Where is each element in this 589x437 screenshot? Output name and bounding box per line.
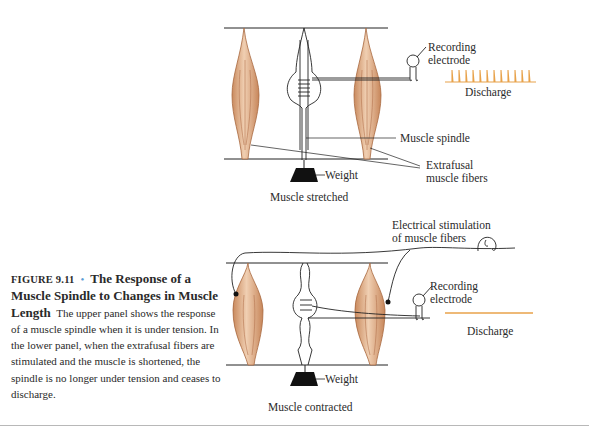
panel-title-stretched: Muscle stretched [270, 191, 348, 204]
muscle-spindle-slack [293, 263, 317, 365]
label-line: muscle fibers [426, 172, 488, 185]
weight-lower [290, 372, 318, 386]
label-line: Recording [430, 280, 478, 293]
label-line: electrode [428, 54, 476, 67]
label-muscle-spindle: Muscle spindle [400, 132, 470, 145]
extrafusal-muscle-right [354, 28, 381, 159]
label-recording-electrode-upper: Recording electrode [428, 41, 476, 67]
panel-title-contracted: Muscle contracted [268, 401, 353, 414]
recording-electrode-upper [407, 47, 426, 81]
caption-body: The upper panel shows the response of a … [11, 307, 221, 400]
label-line: Electrical stimulation [392, 219, 491, 232]
label-line: Extrafusal [426, 159, 488, 172]
muscle-spindle-stretched [287, 28, 320, 160]
label-extrafusal-fibers: Extrafusal muscle fibers [426, 159, 488, 185]
label-electrical-stimulation: Electrical stimulation of muscle fibers [392, 219, 491, 245]
upper-panel [224, 28, 536, 182]
label-line: Recording [428, 41, 476, 54]
discharge-trace-upper [445, 70, 536, 82]
label-line: of muscle fibers [392, 232, 491, 245]
label-discharge-upper: Discharge [465, 86, 511, 99]
label-discharge-lower: Discharge [467, 325, 513, 338]
label-recording-electrode-lower: Recording electrode [430, 280, 478, 306]
figure-number: FIGURE 9.11 [11, 274, 74, 285]
extrafusal-muscle-left-contracted [233, 263, 263, 365]
bottom-divider [0, 425, 589, 426]
lower-panel [226, 237, 533, 386]
label-weight-lower: Weight [325, 373, 358, 386]
caption-bullet: • [80, 273, 84, 285]
label-weight-upper: Weight [325, 169, 358, 182]
figure-caption: FIGURE 9.11•The Response of a Muscle Spi… [11, 271, 226, 402]
extrafusal-muscle-left [232, 28, 259, 159]
label-line: electrode [430, 293, 478, 306]
weight-upper [290, 168, 318, 182]
